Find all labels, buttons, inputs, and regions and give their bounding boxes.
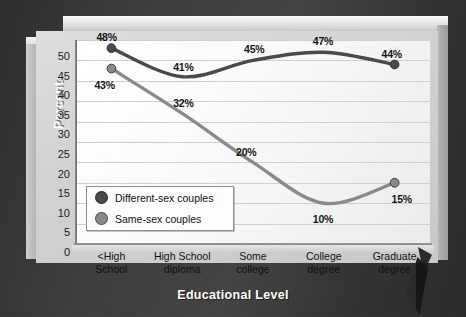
y-tick-label: 30 (42, 129, 70, 139)
y-tick-label: 10 (42, 208, 70, 218)
data-point-marker (390, 60, 399, 69)
x-axis-title: Educational Level (0, 288, 466, 302)
data-label: 10% (313, 213, 333, 225)
data-label: 48% (96, 31, 116, 43)
data-label: 20% (236, 146, 256, 158)
y-tick-label: 45 (42, 71, 70, 81)
legend-marker-same-sex-icon (95, 212, 108, 225)
x-category-label: Somecollege (218, 250, 289, 280)
legend-item-different-sex-couples[interactable]: Different-sex couples (87, 187, 233, 208)
frame-left-wall (26, 44, 36, 259)
data-label: 44% (382, 48, 402, 60)
x-category-label: Collegedegree (288, 250, 359, 280)
x-category-label: High Schooldiploma (147, 250, 218, 280)
y-tick-label: 25 (42, 149, 70, 159)
y-tick-label: 40 (42, 90, 70, 100)
frame-right-wall (437, 25, 448, 260)
frame-top-slab (63, 19, 448, 31)
data-label: 47% (313, 35, 333, 47)
y-axis-ticks: 50454035302520151050 (42, 48, 70, 244)
y-tick-label: 20 (42, 169, 70, 179)
legend-item-same-sex-couples[interactable]: Same-sex couples (87, 208, 233, 229)
data-point-marker (107, 44, 116, 53)
data-label: 43% (94, 79, 114, 91)
x-axis-category-labels: <HighSchoolHigh SchooldiplomaSomecollege… (76, 250, 430, 280)
legend-label: Different-sex couples (115, 192, 213, 204)
data-label: 32% (173, 97, 193, 109)
data-label: 15% (392, 193, 412, 205)
legend: Different-sex couples Same-sex couples (86, 186, 234, 231)
legend-label: Same-sex couples (115, 213, 201, 225)
data-label: 41% (173, 61, 193, 73)
y-tick-label: 15 (42, 188, 70, 198)
x-category-label: <HighSchool (76, 250, 147, 280)
legend-marker-different-sex-icon (95, 191, 108, 204)
chart-screenshot: Percent 50454035302520151050 48%41%45%47… (0, 0, 466, 317)
y-tick-label: 35 (42, 110, 70, 120)
y-tick-label: 50 (42, 51, 70, 61)
y-tick-label: 0 (42, 247, 70, 257)
series-line-same-sex (111, 69, 394, 204)
y-tick-label: 5 (42, 227, 70, 237)
data-point-marker (107, 64, 116, 73)
data-label: 45% (244, 43, 264, 55)
data-point-marker (390, 178, 399, 187)
